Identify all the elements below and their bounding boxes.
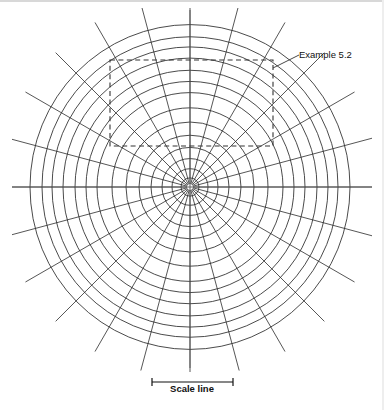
polar-wave-diagram: Example 5.2 Scale line — [0, 0, 384, 410]
radial-spokes-group — [12, 8, 372, 372]
orthogonal-spoke — [192, 190, 286, 352]
scale-line-label: Scale line — [170, 383, 214, 394]
orthogonal-spoke — [142, 8, 189, 184]
orthogonal-spoke — [191, 8, 238, 184]
page-top-edge — [0, 0, 384, 2]
orthogonal-spoke — [95, 190, 189, 352]
figure-root: Example 5.2 Scale line — [0, 0, 384, 410]
orthogonal-spoke — [95, 22, 189, 184]
example-annotation-label: Example 5.2 — [299, 49, 352, 60]
orthogonal-spoke — [12, 188, 187, 235]
axis-lines-group — [12, 10, 372, 368]
orthogonal-spoke — [12, 139, 187, 186]
orthogonal-spoke — [192, 22, 286, 184]
